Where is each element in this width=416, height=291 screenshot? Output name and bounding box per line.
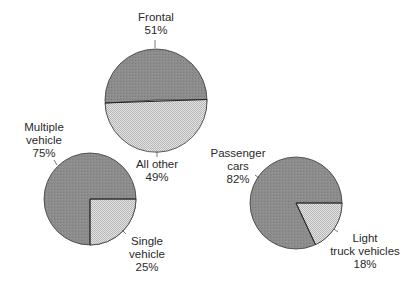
label-text: truck vehicles (322, 245, 408, 258)
slice-all-other (105, 100, 207, 153)
label-text: vehicle (14, 134, 74, 147)
label-frontal: Frontal 51% (125, 11, 187, 37)
label-text: Light (322, 232, 408, 245)
label-value: 75% (14, 147, 74, 160)
label-text: Multiple (14, 121, 74, 134)
label-value: 82% (205, 173, 271, 186)
label-all-other: All other 49% (122, 158, 192, 184)
label-text: Passenger (205, 147, 271, 160)
label-text: Single (116, 235, 178, 248)
label-text: Frontal (125, 11, 187, 24)
label-text: All other (122, 158, 192, 171)
label-text: cars (205, 160, 271, 173)
label-text: vehicle (116, 248, 178, 261)
label-light-truck: Light truck vehicles 18% (322, 232, 408, 271)
label-single-vehicle: Single vehicle 25% (116, 235, 178, 274)
label-value: 49% (122, 171, 192, 184)
pie-frontal (105, 40, 207, 157)
label-multiple-vehicle: Multiple vehicle 75% (14, 121, 74, 160)
label-passenger-cars: Passenger cars 82% (205, 147, 271, 186)
leader-multiple (54, 160, 57, 165)
label-value: 18% (322, 258, 408, 271)
label-value: 51% (125, 24, 187, 37)
label-value: 25% (116, 261, 178, 274)
